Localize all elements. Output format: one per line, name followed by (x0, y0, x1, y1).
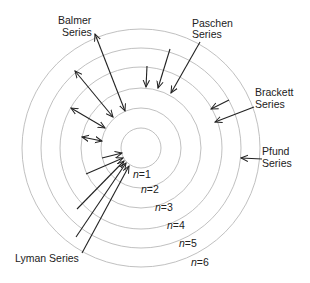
orbit-label-n3: n=3 (155, 201, 173, 213)
lyman-arrow-icon (82, 166, 129, 253)
balmer-series-label: Balmer (58, 14, 92, 26)
pfund-series-label: Pfund (262, 145, 290, 157)
orbit-label-n4: n=4 (167, 219, 185, 231)
lyman-arrow-icon (86, 158, 123, 174)
pfund-arrow-icon (241, 158, 262, 159)
orbit-label-n1: n=1 (133, 168, 151, 180)
paschen-series-label: Series (192, 28, 222, 40)
orbit-group (22, 29, 260, 267)
orbit-label-n2: n=2 (141, 183, 159, 195)
balmer-series-label: Series (62, 26, 92, 38)
balmer-arrow-icon (71, 108, 105, 128)
brackett-arrow-icon (215, 107, 254, 122)
orbit-label-n6: n=6 (191, 256, 209, 268)
brackett-arrow-icon (211, 100, 229, 109)
orbit-label-n5: n=5 (179, 237, 197, 249)
spectral-series-diagram: n=1n=2n=3n=4n=5n=6BalmerSeriesPaschenSer… (0, 0, 310, 283)
balmer-arrow-icon (95, 34, 125, 111)
brackett-series-label: Series (255, 98, 285, 110)
pfund-series-label: Series (262, 157, 292, 169)
brackett-series-label: Brackett (255, 86, 294, 98)
paschen-arrow-icon (171, 42, 200, 93)
paschen-arrow-icon (158, 49, 170, 88)
orbit-n1 (121, 128, 161, 168)
orbit-n4 (60, 67, 222, 229)
orbit-n5 (41, 48, 241, 248)
label-group: n=1n=2n=3n=4n=5n=6BalmerSeriesPaschenSer… (15, 14, 294, 268)
orbit-n6 (22, 29, 260, 267)
lyman-arrow-icon (102, 153, 122, 158)
paschen-arrow-icon (146, 66, 147, 87)
lyman-series-label: Lyman Series (15, 252, 79, 264)
balmer-arrow-icon (82, 137, 102, 141)
